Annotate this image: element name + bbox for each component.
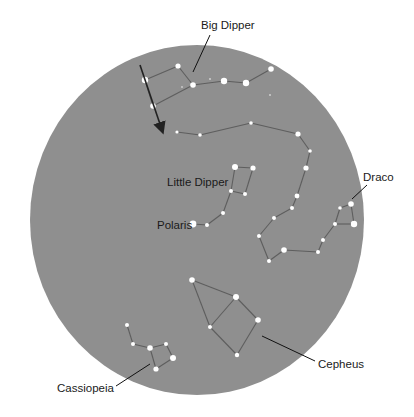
star-icon xyxy=(243,80,249,86)
faint-star-icon xyxy=(181,86,183,88)
star-icon xyxy=(316,250,320,254)
star-icon xyxy=(125,323,129,327)
star-icon xyxy=(295,194,300,199)
star-icon xyxy=(295,131,300,136)
star-icon xyxy=(257,234,261,238)
star-icon xyxy=(250,165,255,170)
star-icon xyxy=(229,189,233,193)
faint-star-icon xyxy=(269,94,271,96)
star-icon xyxy=(205,223,209,227)
big-dipper-label: Big Dipper xyxy=(201,19,255,31)
star-icon xyxy=(333,222,337,226)
star-icon xyxy=(175,63,180,68)
sky-disc xyxy=(30,45,364,395)
cepheus-label: Cepheus xyxy=(318,358,364,370)
star-icon xyxy=(221,78,227,84)
star-icon xyxy=(243,192,247,196)
star-icon xyxy=(281,247,287,253)
star-icon xyxy=(272,216,276,220)
little-dipper-label: Little Dipper xyxy=(167,176,229,188)
star-icon xyxy=(189,277,195,283)
star-icon xyxy=(351,221,357,227)
star-icon xyxy=(208,325,212,329)
star-icon xyxy=(164,342,168,346)
star-icon xyxy=(221,211,225,215)
star-icon xyxy=(308,149,312,153)
star-icon xyxy=(170,355,176,361)
star-icon xyxy=(233,294,239,300)
star-icon xyxy=(290,206,294,210)
star-icon xyxy=(147,345,153,351)
star-icon xyxy=(131,342,135,346)
star-chart: Big Dipper Little Dipper Polaris Draco C… xyxy=(0,0,414,417)
star-icon xyxy=(268,66,274,72)
label-polaris: Polaris xyxy=(157,219,192,231)
polaris-label: Polaris xyxy=(157,219,192,231)
star-icon xyxy=(175,130,178,133)
star-icon xyxy=(153,366,158,371)
draco-label: Draco xyxy=(363,171,394,183)
star-icon xyxy=(232,164,238,170)
star-icon xyxy=(235,353,239,357)
star-icon xyxy=(338,206,342,210)
star-icon xyxy=(267,259,271,263)
star-icon xyxy=(249,121,253,125)
faint-star-icon xyxy=(209,78,211,80)
star-icon xyxy=(198,133,202,137)
star-icon xyxy=(321,238,325,242)
star-icon xyxy=(255,317,261,323)
star-icon xyxy=(190,82,196,88)
star-icon xyxy=(348,201,354,207)
star-icon xyxy=(303,165,308,170)
label-little-dipper: Little Dipper xyxy=(167,176,229,188)
cassiopeia-label: Cassiopeia xyxy=(57,382,114,394)
